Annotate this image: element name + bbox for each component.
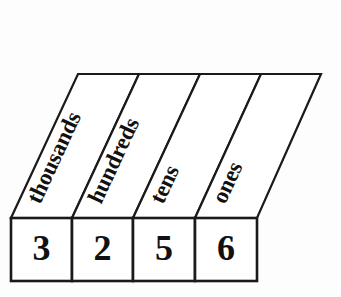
digit-ones: 6 <box>217 228 235 268</box>
digit-thousands: 3 <box>33 228 51 268</box>
place-value-chart: thousands hundreds tens ones 3 2 5 6 <box>0 0 341 297</box>
digit-tens: 5 <box>155 228 173 268</box>
digit-hundreds: 2 <box>94 228 112 268</box>
place-value-chart-svg: thousands hundreds tens ones 3 2 5 6 <box>0 0 341 297</box>
